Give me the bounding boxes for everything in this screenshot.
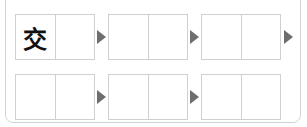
char-cell[interactable] bbox=[16, 75, 55, 119]
word-box-r1-g2 bbox=[108, 14, 188, 60]
char-cell[interactable] bbox=[148, 15, 188, 59]
char-cell[interactable] bbox=[109, 15, 148, 59]
char-cell[interactable] bbox=[55, 15, 95, 59]
word-box-r2-g1 bbox=[15, 74, 95, 120]
char-cell[interactable] bbox=[109, 75, 148, 119]
word-box-r2-g3 bbox=[201, 74, 281, 120]
char-cell[interactable] bbox=[55, 75, 95, 119]
word-box-r1-g1: 交 bbox=[15, 14, 95, 60]
triangle-right-icon bbox=[190, 90, 199, 104]
char-cell[interactable] bbox=[241, 75, 281, 119]
char-cell[interactable]: 交 bbox=[16, 15, 55, 59]
char-cell[interactable] bbox=[241, 15, 281, 59]
triangle-right-icon bbox=[284, 30, 293, 44]
char-cell[interactable] bbox=[148, 75, 188, 119]
char-cell[interactable] bbox=[202, 15, 241, 59]
word-box-r2-g2 bbox=[108, 74, 188, 120]
triangle-right-icon bbox=[97, 30, 106, 44]
char-cell[interactable] bbox=[202, 75, 241, 119]
word-box-r1-g3 bbox=[201, 14, 281, 60]
triangle-right-icon bbox=[190, 30, 199, 44]
triangle-right-icon bbox=[97, 90, 106, 104]
